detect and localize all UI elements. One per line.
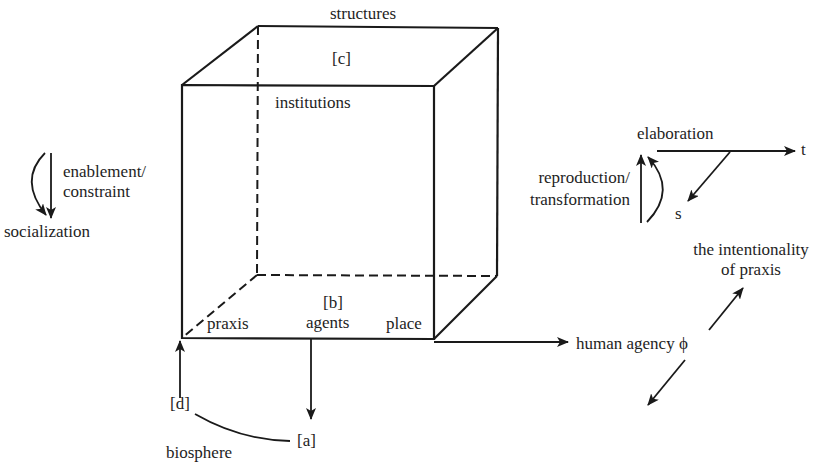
label-t: t <box>801 140 806 159</box>
marker-c: [c] <box>332 49 351 68</box>
label-s: s <box>675 204 682 223</box>
label-of-praxis: of praxis <box>676 260 826 279</box>
label-human-agency: human agency ϕ <box>576 334 688 353</box>
label-constraint: constraint <box>63 182 130 201</box>
label-praxis: praxis <box>207 314 249 333</box>
intentionality-up-arrow <box>709 288 743 330</box>
label-agents: agents <box>306 313 349 332</box>
label-institutions: institutions <box>275 93 351 112</box>
label-biosphere: biosphere <box>166 443 232 462</box>
marker-d: [d] <box>170 394 190 413</box>
label-place: place <box>386 314 422 333</box>
label-socialization: socialization <box>4 222 90 241</box>
biosphere-curve <box>195 414 290 441</box>
transformation-curve-arrow <box>647 157 663 222</box>
label-transformation: transformation <box>500 190 630 209</box>
label-intentionality: the intentionality <box>676 240 826 259</box>
socialization-curve-arrow <box>32 153 46 215</box>
marker-b: [b] <box>323 293 343 312</box>
label-structures: structures <box>330 4 396 23</box>
marker-a: [a] <box>297 431 316 450</box>
label-elaboration: elaboration <box>637 124 713 143</box>
label-enablement: enablement/ <box>63 162 146 181</box>
space-axis-arrow <box>688 152 730 201</box>
diagram-canvas <box>0 0 826 472</box>
intentionality-down-arrow <box>648 360 685 405</box>
label-reproduction: reproduction/ <box>510 168 630 187</box>
